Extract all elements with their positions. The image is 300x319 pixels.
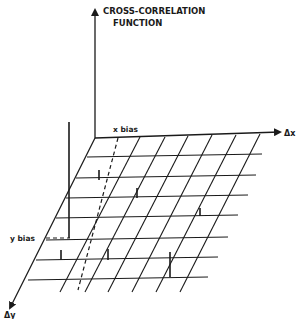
grid-columns	[60, 134, 260, 292]
cross-correlation-diagram: CROSS-CORRELATION FUNCTION Δx Δy x bias …	[0, 0, 300, 319]
y-bias-label: y bias	[10, 234, 36, 243]
grid-rows	[28, 154, 262, 280]
x-axis-label: Δx	[284, 129, 296, 138]
y-axis-label: Δy	[4, 311, 16, 319]
title-line2: FUNCTION	[113, 18, 162, 28]
x-bias-label: x bias	[113, 125, 138, 134]
title-line1: CROSS-CORRELATION	[103, 6, 205, 16]
y-axis	[10, 138, 95, 308]
